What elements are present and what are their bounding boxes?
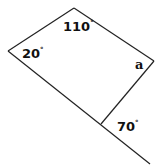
edge-right-bottom bbox=[101, 61, 154, 124]
angle-top-label: 110° bbox=[63, 19, 94, 34]
quadrilateral-diagram: 110° 20° a 70° bbox=[0, 0, 155, 165]
angle-exterior-label: 70° bbox=[117, 119, 139, 134]
angle-left-label: 20° bbox=[22, 46, 44, 61]
edge-top-right bbox=[74, 8, 154, 61]
angle-a-label: a bbox=[135, 57, 144, 72]
edge-left-bottom-extended bbox=[8, 51, 150, 164]
